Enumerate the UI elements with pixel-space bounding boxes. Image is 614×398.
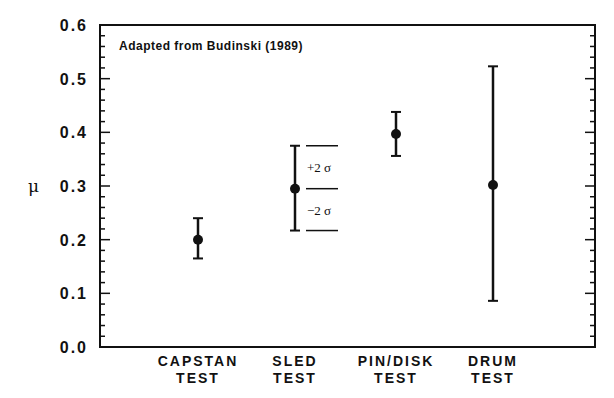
y-tick-label: 0.4	[60, 124, 88, 141]
y-axis-tick-labels: 0.00.10.20.30.40.50.6	[60, 17, 88, 356]
y-tick-label: 0.6	[60, 17, 88, 34]
error-bar-points	[193, 66, 498, 301]
category-label-line1: DRUM	[468, 353, 518, 369]
source-annotation: Adapted from Budinski (1989)	[119, 39, 303, 53]
plot-frame	[100, 25, 595, 347]
category-label-line2: TEST	[273, 370, 317, 386]
category-label-line2: TEST	[471, 370, 515, 386]
y-axis-ticks	[100, 25, 595, 347]
data-point-sled-test	[290, 146, 300, 231]
data-point-pin-disk-test	[391, 112, 401, 156]
category-label-line2: TEST	[176, 370, 220, 386]
category-label-line1: PIN/DISK	[358, 353, 435, 369]
sigma-legend-lines: +2 σ−2 σ	[306, 146, 338, 231]
data-point-drum-test	[488, 66, 498, 301]
y-axis-label: μ	[28, 176, 39, 196]
category-label-line2: TEST	[374, 370, 418, 386]
y-tick-label: 0.0	[60, 339, 88, 356]
y-tick-label: 0.5	[60, 71, 88, 88]
friction-chart: 0.00.10.20.30.40.50.6 μ Adapted from Bud…	[0, 0, 614, 398]
y-tick-label: 0.2	[60, 232, 88, 249]
plus-2-sigma-label: +2 σ	[307, 160, 331, 175]
category-label-line1: CAPSTAN	[158, 353, 239, 369]
minus-2-sigma-label: −2 σ	[307, 203, 331, 218]
y-tick-label: 0.1	[60, 285, 88, 302]
data-point-capstan-test	[193, 218, 203, 258]
category-label-line1: SLED	[272, 353, 317, 369]
x-axis-category-labels: CAPSTANTESTSLEDTESTPIN/DISKTESTDRUMTEST	[158, 353, 518, 386]
y-tick-label: 0.3	[60, 178, 88, 195]
